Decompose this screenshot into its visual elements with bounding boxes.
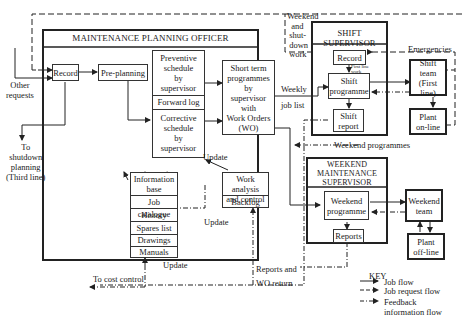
key-feedback-flow: Feedback information flow	[384, 297, 454, 317]
info-base-title: Informationbase	[131, 173, 177, 195]
spares-list: Spares list	[131, 221, 177, 234]
information-base: Informationbase Job catalogue History Sp…	[130, 172, 178, 258]
update-top-label: Update	[203, 152, 228, 162]
short-term-programmes-box: Short termprogrammesbysupervisorwithWork…	[222, 60, 275, 135]
po-record-box: Record	[52, 64, 79, 81]
weekend-programme-box: Weekendprogramme	[324, 191, 369, 220]
update-mid-label: Update	[204, 217, 229, 227]
weekend-supervisor-title: WEEKENDMAINTENANCESUPERVISOR	[307, 160, 387, 187]
emergencies-label: Emergencies	[408, 44, 452, 54]
weekend-programmes-label: Weekend programmes	[334, 140, 410, 150]
weekend-team-box: Weekendteam	[405, 189, 443, 222]
plant-offline-box: Plantoff-line	[407, 233, 445, 260]
to-shutdown-label: Toshutdownplanning(Third line)	[6, 142, 45, 182]
weekly-job-list-label: Weeklyjob list	[281, 81, 307, 113]
preplanning-box: Pre-planning	[98, 64, 148, 81]
plant-online-box: Planton-line	[409, 108, 447, 135]
forward-log: Forward log	[153, 95, 204, 109]
shift-supervisor-title: SHIFT SUPERVISOR	[312, 28, 387, 48]
work-analysis-box: Work analysisand control Backlog	[222, 172, 269, 208]
reports-wo-return-label: Reports andWO return	[256, 262, 297, 290]
key-job-request-flow: Job request flow	[384, 286, 440, 296]
corrective-schedule: Correctiveschedulebysupervisor	[153, 109, 204, 157]
shift-report-box: Shiftreport	[333, 109, 364, 132]
job-catalogue: Job catalogue	[131, 195, 177, 208]
other-requests-label: Otherrequests	[6, 80, 34, 100]
schedule-stack: Preventiveschedulebysupervisor Forward l…	[152, 50, 205, 158]
shift-programme-box: Shiftprogramme	[328, 73, 370, 99]
drawings: Drawings	[131, 234, 177, 246]
work-analysis: Work analysisand control	[223, 173, 268, 195]
shift-team-box: Shiftteam(First line)	[409, 59, 447, 96]
manuals: Manuals	[131, 246, 177, 258]
preventive-schedule: Preventiveschedulebysupervisor	[153, 51, 204, 95]
ss-record-box: Record	[333, 50, 366, 65]
planning-officer-title: MAINTENANCE PLANNING OFFICER	[43, 33, 258, 43]
flow-lines	[0, 0, 465, 320]
update-bottom-label: Update	[163, 260, 188, 270]
weekend-reports-box: Reports	[333, 229, 364, 243]
weekend-shutdown-label: Weekend and shut- down work	[287, 12, 318, 60]
to-cost-control-label: To cost control	[93, 274, 144, 284]
